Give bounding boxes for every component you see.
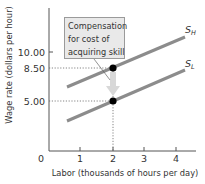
- y-tick-label-8-50: 8.50: [24, 63, 45, 74]
- x-tick-label-0: 0: [38, 153, 44, 164]
- equilibrium-point-high-skill: [109, 64, 116, 71]
- y-axis-title: Wage rate (dollars per hour): [4, 6, 14, 124]
- x-tick-label-2: 2: [110, 153, 116, 164]
- compensation-callout: Compensation for cost of acquiring skill: [64, 17, 125, 59]
- x-tick-label-4: 4: [173, 153, 179, 164]
- equilibrium-point-low-skill: [109, 97, 116, 104]
- compensation-arrow-head: [106, 86, 120, 96]
- series-label-sl: SL: [185, 58, 195, 71]
- series-label-sh: SH: [185, 24, 196, 37]
- callout-line-2: for cost of: [68, 33, 121, 46]
- compensation-arrow-shaft: [110, 72, 116, 88]
- x-axis-title: Labor (thousands of hours per day): [52, 168, 199, 178]
- y-tick-label-5: 5.00: [24, 96, 45, 107]
- x-tick-label-1: 1: [77, 153, 83, 164]
- supply-curve-low-skill: [67, 70, 185, 121]
- callout-line-1: Compensation: [68, 20, 121, 33]
- y-tick-label-10: 10.00: [18, 47, 45, 58]
- x-tick-label-3: 3: [141, 153, 147, 164]
- callout-line-3: acquiring skill: [68, 46, 121, 59]
